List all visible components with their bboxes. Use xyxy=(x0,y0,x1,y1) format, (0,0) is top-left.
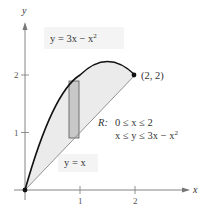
upper-curve-label-exp: 2 xyxy=(93,32,97,40)
region-line-2-exp: 2 xyxy=(174,129,178,137)
region-line-2-text: x ≤ y ≤ 3x − x xyxy=(115,130,175,141)
y-tick-label-1: 1 xyxy=(14,128,19,138)
region-line-2: x ≤ y ≤ 3x − x2 xyxy=(115,129,178,141)
point-2-2 xyxy=(132,73,137,78)
lower-curve-label: y = x xyxy=(64,157,86,168)
region-line-1: 0 ≤ x ≤ 2 xyxy=(115,117,153,128)
origin-point xyxy=(23,188,28,193)
upper-curve-label: y = 3x − x2 xyxy=(50,32,97,44)
x-axis-arrow-icon xyxy=(182,188,190,193)
y-tick-label-2: 2 xyxy=(14,70,19,80)
region-name: R: xyxy=(97,117,108,128)
y-axis-arrow-icon xyxy=(23,22,28,30)
y-axis-label: y xyxy=(21,5,27,16)
region-diagram: y x 1 2 1 2 y = 3x − x2 y = x (2, 2) R: … xyxy=(0,0,208,216)
representative-rectangle xyxy=(69,81,79,138)
x-tick-label-2: 2 xyxy=(133,196,138,206)
x-axis-label: x xyxy=(192,184,198,195)
x-tick-label-1: 1 xyxy=(78,196,83,206)
upper-curve-label-text: y = 3x − x xyxy=(50,33,94,44)
point-label: (2, 2) xyxy=(141,70,164,82)
